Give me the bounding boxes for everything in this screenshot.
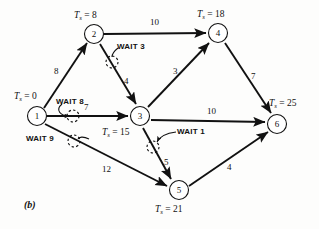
node-time-6: Ts = 25 [269, 99, 297, 109]
edge-weight-1-3: 7 [84, 103, 89, 112]
edge-weight-3-5: 5 [164, 158, 169, 167]
diagram-canvas [0, 0, 319, 229]
node-label-3: 3 [131, 111, 149, 121]
edge-weight-3-4: 3 [173, 67, 178, 76]
node-label-2: 2 [85, 29, 103, 39]
node-label-5: 5 [170, 185, 188, 195]
edge-4-6 [225, 43, 271, 113]
node-label-6: 6 [268, 119, 286, 129]
wait-label-1: WAIT 1 [177, 128, 205, 136]
figure-caption: (b) [24, 200, 36, 210]
wait-leader-1 [157, 132, 176, 142]
edge-weight-5-6: 4 [227, 163, 232, 172]
wait-label-3: WAIT 3 [117, 43, 145, 51]
edge-weight-2-3: 4 [124, 77, 129, 86]
edge-5-6 [189, 132, 268, 186]
edge-weight-3-6: 10 [207, 107, 216, 116]
node-label-4: 4 [209, 28, 227, 38]
nodes-group [28, 24, 287, 200]
network-diagram-figure: 1 2 3 4 5 6 Ts = 0 Ts = 8 Ts = 15 Ts = 1… [0, 0, 319, 229]
edge-3-4 [148, 43, 209, 107]
node-time-4: Ts = 18 [197, 10, 225, 20]
node-label-1: 1 [28, 111, 46, 121]
edge-weight-1-5: 12 [102, 165, 111, 174]
node-time-2: Ts = 8 [74, 11, 97, 21]
edge-2-3 [100, 44, 136, 104]
edge-3-5 [143, 128, 171, 179]
node-time-5: Ts = 21 [155, 205, 183, 215]
node-time-3: Ts = 15 [102, 128, 130, 138]
edges-group [44, 33, 271, 186]
edge-3-6 [151, 120, 265, 122]
edge-weight-4-6: 7 [251, 72, 256, 81]
edge-weight-2-4: 10 [150, 18, 159, 27]
wait-label-9: WAIT 9 [26, 135, 54, 143]
edge-2-4 [104, 33, 206, 34]
node-time-1: Ts = 0 [14, 92, 37, 102]
wait-label-8: WAIT 8 [56, 98, 84, 106]
edge-weight-1-2: 8 [54, 67, 59, 76]
